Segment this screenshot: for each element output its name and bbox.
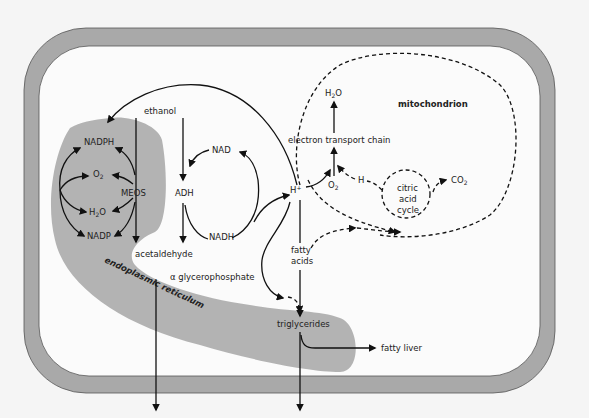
etc-label: electron transport chain	[288, 135, 390, 145]
ethanol-metabolism-diagram: mitochondrion endoplasmic reticulum etha…	[0, 0, 589, 418]
cac-label-1: citric	[397, 183, 418, 193]
glycerophosphate-label: α glycerophosphate	[170, 272, 254, 282]
mitochondrion-label: mitochondrion	[398, 99, 468, 109]
fatty-acids-label-2: acids	[291, 256, 314, 266]
ethanol-label: ethanol	[144, 106, 176, 116]
nadp-label: NADP	[87, 231, 111, 241]
fatty-liver-label: fatty liver	[381, 343, 423, 353]
cac-label-3: cycle	[397, 205, 419, 215]
triglycerides-label: triglycerides	[277, 319, 330, 329]
cac-label-2: acid	[399, 194, 417, 204]
nad-label: NAD	[212, 145, 231, 155]
nadph-label: NADPH	[84, 137, 114, 147]
nadh-label: NADH	[209, 232, 234, 242]
h-label: H	[358, 175, 364, 185]
fatty-acids-label-1: fatty	[291, 245, 311, 255]
meos-label: MEOS	[121, 188, 146, 198]
acetaldehyde-label: acetaldehyde	[135, 249, 193, 259]
adh-label: ADH	[175, 188, 194, 198]
